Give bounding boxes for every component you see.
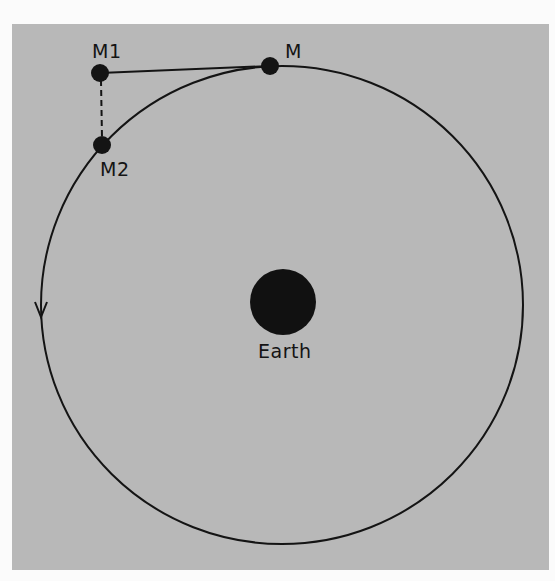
label-m: M [285, 40, 302, 62]
moon-point-m2 [93, 136, 111, 154]
fall-line-m1-m2 [101, 80, 102, 138]
label-m2: M2 [100, 158, 129, 180]
moon-point-m [261, 57, 279, 75]
moon-point-m1 [91, 64, 109, 82]
label-earth: Earth [258, 340, 311, 362]
orbit-diagram [0, 0, 555, 581]
earth [250, 269, 316, 335]
label-m1: M1 [92, 40, 121, 62]
